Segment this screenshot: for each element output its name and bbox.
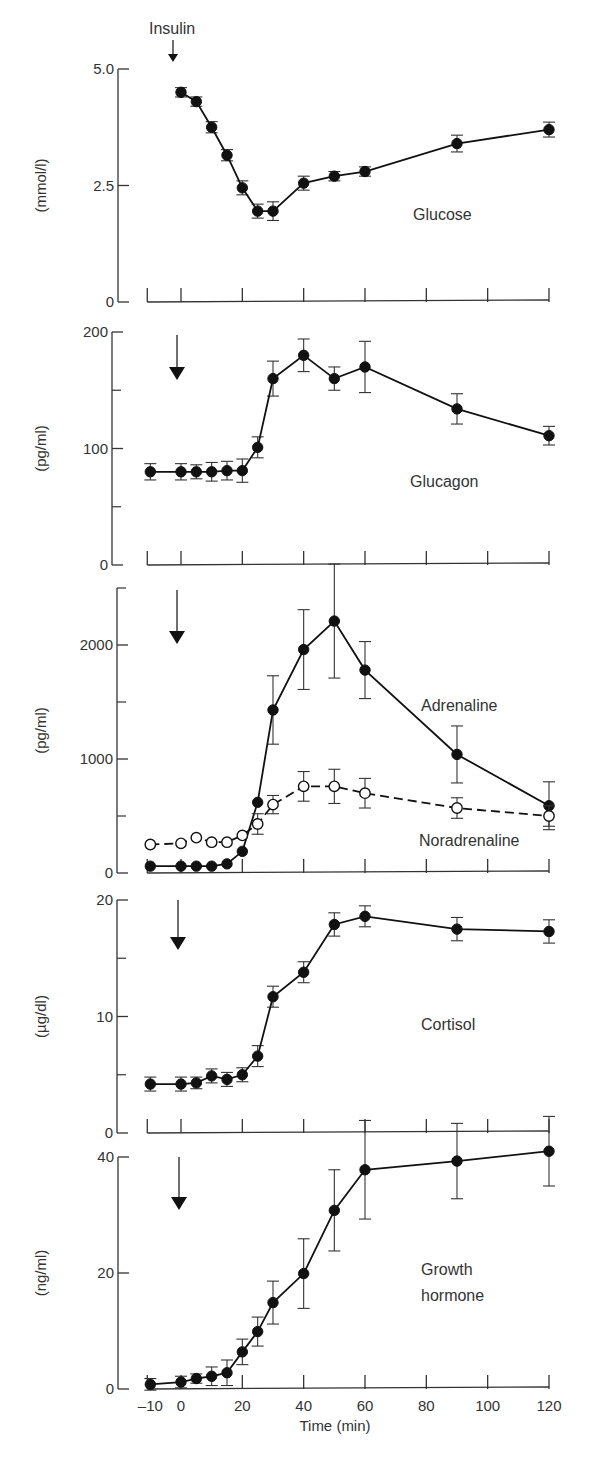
data-point-cortisol [176, 1079, 186, 1089]
data-point-cortisol [360, 911, 370, 921]
data-point-glucose [252, 206, 262, 216]
y-tick-label: 0 [105, 864, 113, 881]
data-point-adrenaline [222, 859, 232, 869]
data-point-glucose [237, 183, 247, 193]
series-line-growth-hormone [150, 1151, 549, 1384]
x-tick-label: 120 [536, 1397, 561, 1414]
data-point-glucagon [452, 404, 462, 414]
data-point-noradrenaline [237, 830, 247, 840]
x-axis-line [147, 1387, 549, 1389]
data-point-noradrenaline [360, 788, 370, 798]
hormone-response-figure: 02.55.0(mmol/l) 0100200(pg/ml) 010002000… [0, 0, 594, 1474]
data-point-growth-hormone [360, 1165, 370, 1175]
data-point-adrenaline [298, 644, 308, 654]
y-tick-label: 5.0 [93, 60, 114, 77]
data-point-noradrenaline [268, 799, 278, 809]
series-line-glucagon [150, 355, 549, 472]
data-point-glucose [268, 206, 278, 216]
insulin-arrow-icon [169, 367, 185, 380]
y-tick-label: 40 [97, 1148, 114, 1165]
data-point-glucose [329, 171, 339, 181]
data-point-glucagon [176, 467, 186, 477]
data-point-adrenaline [268, 705, 278, 715]
data-point-glucagon [268, 373, 278, 383]
data-point-growth-hormone [268, 1297, 278, 1307]
data-point-cortisol [268, 991, 278, 1001]
series-line-cortisol [150, 916, 549, 1084]
data-point-growth-hormone [252, 1326, 262, 1336]
data-point-growth-hormone [176, 1377, 186, 1387]
data-point-glucose [298, 178, 308, 188]
x-tick-label: 100 [475, 1397, 500, 1414]
y-axis-title: (mmol/l) [32, 158, 49, 212]
data-point-glucose [176, 87, 186, 97]
y-axis-title: (µg/dl) [32, 995, 49, 1038]
glucagon-label: Glucagon [410, 473, 479, 490]
x-axis-line [147, 871, 549, 873]
data-point-noradrenaline [252, 819, 262, 829]
growth-hormone-label-line1: Growth [421, 1261, 473, 1278]
y-axis-title: (pg/ml) [32, 425, 49, 472]
data-point-growth-hormone [298, 1268, 308, 1278]
series-line-adrenaline [150, 621, 549, 866]
data-point-cortisol [237, 1070, 247, 1080]
data-point-adrenaline [360, 665, 370, 675]
x-axis-line [147, 563, 549, 565]
data-point-cortisol [145, 1079, 155, 1089]
data-point-glucose [360, 166, 370, 176]
data-point-cortisol [252, 1051, 262, 1061]
data-point-growth-hormone [237, 1347, 247, 1357]
data-point-adrenaline [206, 861, 216, 871]
data-point-glucagon [191, 467, 201, 477]
data-point-adrenaline [252, 797, 262, 807]
data-point-cortisol [452, 924, 462, 934]
data-point-glucagon [206, 467, 216, 477]
data-point-adrenaline [176, 861, 186, 871]
y-tick-label: 1000 [80, 750, 113, 767]
data-point-cortisol [206, 1071, 216, 1081]
y-tick-label: 20 [96, 891, 113, 908]
x-axis-line [147, 1131, 549, 1133]
data-point-cortisol [222, 1074, 232, 1084]
data-point-noradrenaline [329, 781, 339, 791]
glucagon-panel: 0100200(pg/ml) [32, 323, 555, 573]
data-point-glucagon [145, 467, 155, 477]
y-axis-title: (ng/ml) [32, 1250, 49, 1297]
x-tick-label: 60 [357, 1397, 374, 1414]
data-point-adrenaline [145, 861, 155, 871]
data-point-adrenaline [237, 846, 247, 856]
data-point-glucagon [298, 350, 308, 360]
data-point-growth-hormone [206, 1371, 216, 1381]
data-point-noradrenaline [222, 837, 232, 847]
y-tick-label: 0 [106, 1380, 114, 1397]
data-point-glucagon [237, 465, 247, 475]
data-point-cortisol [329, 919, 339, 929]
data-point-noradrenaline [206, 837, 216, 847]
series-line-glucose [181, 92, 549, 211]
x-axis-title: Time (min) [299, 1417, 370, 1434]
insulin-annotation: Insulin [149, 20, 195, 37]
data-point-growth-hormone [544, 1146, 554, 1156]
data-point-adrenaline [452, 749, 462, 759]
y-tick-label: 20 [97, 1264, 114, 1281]
x-tick-label: 40 [295, 1397, 312, 1414]
data-point-glucose [222, 150, 232, 160]
y-tick-label: 10 [96, 1008, 113, 1025]
data-point-adrenaline [191, 861, 201, 871]
x-tick-label: –10 [138, 1397, 163, 1414]
glucose-label: Glucose [413, 206, 472, 223]
data-point-growth-hormone [191, 1373, 201, 1383]
insulin-arrow-icon [170, 937, 186, 950]
data-point-glucagon [544, 430, 554, 440]
data-point-noradrenaline [544, 811, 554, 821]
y-tick-label: 2.5 [93, 177, 114, 194]
growth-hormone-panel: 02040(ng/ml)–10020406080100120 [32, 1116, 562, 1414]
data-point-cortisol [298, 967, 308, 977]
insulin-arrow-icon [168, 54, 178, 62]
y-tick-label: 0 [105, 1124, 113, 1141]
y-axis-title: (pg/ml) [32, 707, 49, 754]
data-point-glucose [452, 138, 462, 148]
data-point-glucagon [222, 465, 232, 475]
y-tick-label: 2000 [80, 636, 113, 653]
y-tick-label: 0 [106, 293, 114, 310]
